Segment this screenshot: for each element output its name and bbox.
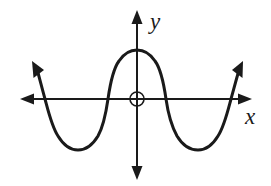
graph-figure: y x — [0, 0, 271, 186]
x-axis-right-arrowhead — [238, 94, 252, 105]
y-axis-top-arrowhead — [132, 10, 143, 24]
x-axis-label: x — [244, 104, 256, 129]
x-axis-left-arrowhead — [20, 94, 34, 105]
y-axis-bottom-arrowhead — [132, 166, 143, 180]
y-axis-group — [132, 10, 143, 180]
coordinate-plane-svg: y x — [0, 0, 271, 186]
y-axis-label: y — [148, 9, 161, 34]
